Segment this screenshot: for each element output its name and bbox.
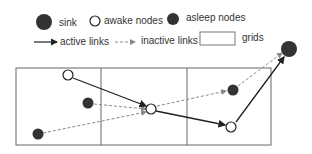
legend-asleep-label: asleep nodes <box>186 13 246 23</box>
active-link <box>236 57 284 122</box>
sink-node <box>281 41 297 57</box>
inactive-link <box>43 112 146 133</box>
legend-grid-icon <box>200 32 235 45</box>
legend-grids-label: grids <box>242 33 264 43</box>
active-link <box>156 111 225 125</box>
inactive-link <box>94 104 146 109</box>
legend-active-label: active links <box>60 37 109 47</box>
awake-node <box>146 104 156 114</box>
legend-sink-icon <box>36 14 52 30</box>
legend-sink-label: sink <box>59 18 77 28</box>
awake-node <box>226 122 236 132</box>
inactive-link <box>157 91 226 106</box>
legend-awake-icon <box>90 16 100 26</box>
legend-awake-label: awake nodes <box>104 16 163 26</box>
grid-frame <box>16 68 271 145</box>
legend-inactive-label: inactive links <box>141 36 198 46</box>
legend-asleep-icon <box>167 13 179 25</box>
awake-node <box>63 70 73 80</box>
asleep-node <box>83 98 94 109</box>
asleep-node <box>228 85 239 96</box>
asleep-node <box>33 129 44 140</box>
